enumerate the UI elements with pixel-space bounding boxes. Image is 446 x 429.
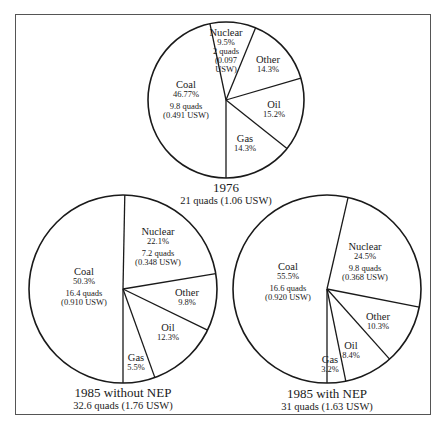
label-1985a-nuclear: Nuclear 22.1% 7.2 quads (0.348 USW) <box>135 226 181 267</box>
label-1985b-oil: Oil 8.4% <box>342 340 360 360</box>
label-1985a-oil: Oil 12.3% <box>157 322 179 342</box>
caption-1985a-title: 1985 without NEP <box>73 386 172 400</box>
caption-1976: 1976 21 quads (1.06 USW) <box>180 181 272 207</box>
label-1985b-other: Other 10.3% <box>366 311 390 331</box>
label-1985b-gas: Gas 3.2% <box>321 354 339 374</box>
label-1985b-coal: Coal 55.5% 16.6 quads (0.920 USW) <box>265 261 311 302</box>
caption-1985b-title: 1985 with NEP <box>281 387 373 401</box>
caption-1976-title: 1976 <box>180 181 272 195</box>
caption-1985a: 1985 without NEP 32.6 quads (1.76 USW) <box>73 386 172 412</box>
label-1976-other: Other 14.3% <box>256 54 280 74</box>
label-1976-coal: Coal 46.77% 9.8 quads (0.491 USW) <box>163 79 209 120</box>
caption-1976-subtitle: 21 quads (1.06 USW) <box>180 195 272 207</box>
label-1985a-other: Other 9.8% <box>175 287 199 307</box>
caption-1985a-subtitle: 32.6 quads (1.76 USW) <box>73 400 172 412</box>
label-1976-gas: Gas 14.3% <box>234 133 256 153</box>
label-1976-nuclear: Nuclear 9.5% 2 quads (0.097 USW) <box>209 27 242 74</box>
caption-1985b: 1985 with NEP 31 quads (1.63 USW) <box>281 387 373 413</box>
label-1985b-nuclear: Nuclear 24.5% 9.8 quads (0.368 USW) <box>342 241 388 282</box>
label-1985a-coal: Coal 50.3% 16.4 quads (0.910 USW) <box>61 266 107 307</box>
caption-1985b-subtitle: 31 quads (1.63 USW) <box>281 401 373 413</box>
label-1985a-gas: Gas 5.5% <box>127 352 145 372</box>
label-1976-oil: Oil 15.2% <box>263 99 285 119</box>
